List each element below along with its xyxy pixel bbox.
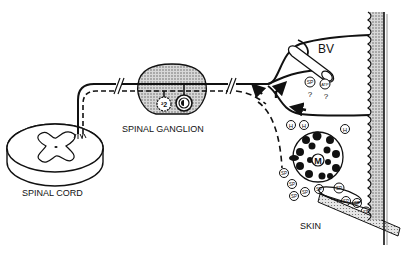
- svg-text:SP: SP: [281, 171, 287, 176]
- histamine-marker: H: [287, 121, 296, 130]
- mast-cell: M: [289, 132, 343, 183]
- neuron-cell-1: [176, 95, 192, 111]
- histamine-marker: H: [300, 121, 309, 130]
- nerve-terminal: [317, 184, 400, 236]
- svg-text:H: H: [289, 123, 293, 129]
- skin-epidermis: [368, 12, 387, 245]
- spinal-cord-label: SPINAL CORD: [22, 188, 83, 198]
- svg-text:SP: SP: [302, 190, 308, 195]
- spinal-ganglion: [138, 64, 207, 114]
- svg-text:H: H: [343, 127, 347, 133]
- antidromic-arrows: [256, 86, 306, 110]
- svg-text:ATP: ATP: [321, 82, 329, 87]
- svg-text:M: M: [314, 156, 322, 166]
- axon-break-right: [226, 78, 236, 94]
- sp-marker-bv: SP ?: [305, 77, 315, 99]
- histamine-marker: H: [341, 125, 350, 134]
- peripheral-axon: [236, 35, 370, 116]
- svg-text:H: H: [302, 123, 306, 129]
- skin-label: SKIN: [300, 221, 321, 231]
- atp-marker: ATP ?: [320, 79, 330, 101]
- spinal-ganglion-label: SPINAL GANGLION: [122, 124, 204, 134]
- dashed-fiber: [236, 91, 282, 168]
- svg-text:SP: SP: [307, 79, 314, 85]
- svg-text:²2: ²2: [161, 101, 167, 108]
- svg-text:?: ?: [308, 90, 313, 99]
- spinal-cord: [7, 124, 103, 186]
- svg-text:SP: SP: [289, 182, 295, 187]
- svg-text:SP: SP: [291, 194, 297, 199]
- svg-text:?: ?: [324, 92, 329, 101]
- neurogenic-inflammation-diagram: ²2 BV SP ?: [0, 0, 409, 253]
- bv-label: BV: [318, 42, 334, 56]
- neuron-cell-2: ²2: [157, 97, 171, 111]
